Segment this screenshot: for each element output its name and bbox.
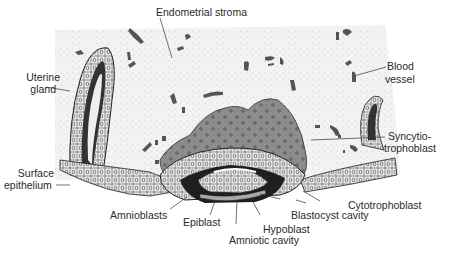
label-syncytiotrophoblast-line1: Syncytio- — [388, 131, 431, 142]
label-blood-vessel-line1: Blood — [387, 61, 414, 72]
label-amniotic-cavity: Amniotic cavity — [229, 235, 299, 246]
label-blastocyst-cavity: Blastocyst cavity — [291, 210, 369, 221]
label-endometrial-stroma: Endometrial stroma — [156, 7, 247, 18]
label-blood-vessel-line2: vessel — [385, 74, 415, 85]
label-surface-epithelium-line1: Surface — [2, 168, 54, 179]
label-epiblast: Epiblast — [183, 217, 220, 228]
label-syncytiotrophoblast-line2: trophoblast — [384, 143, 436, 154]
label-amnioblasts: Amnioblasts — [110, 210, 167, 221]
diagram-artwork — [0, 0, 450, 257]
label-uterine-gland-line2: gland — [16, 84, 56, 95]
label-uterine-gland-line1: Uterine — [16, 72, 60, 83]
label-surface-epithelium-line2: epithelium — [4, 180, 52, 191]
implantation-diagram: Endometrial stroma Uterine gland Blood v… — [0, 0, 450, 257]
